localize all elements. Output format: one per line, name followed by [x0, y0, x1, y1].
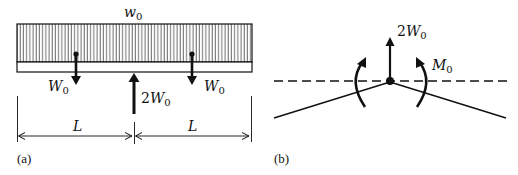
right-load-label: W0 — [204, 78, 225, 96]
arrowhead-up-icon — [386, 37, 395, 46]
dimension-label-left: L — [72, 118, 82, 134]
left-moment-arc — [356, 57, 366, 107]
left-load-label: W0 — [48, 78, 69, 96]
distributed-load-block — [17, 24, 252, 62]
figure: w0 W0 W0 2W0 — [0, 0, 518, 175]
reaction-label: 2W0 — [397, 23, 427, 41]
panel-b: 2W0 M0 (b) — [274, 23, 508, 166]
arrowhead-down-icon — [71, 76, 81, 85]
right-moment-arc — [416, 57, 426, 107]
reaction-arrow — [386, 37, 395, 81]
right-deflected-segment — [390, 82, 506, 118]
panel-a-caption: (a) — [17, 151, 31, 166]
dimension-label-right: L — [187, 118, 197, 134]
beam — [17, 62, 252, 72]
arrowhead-down-icon — [187, 76, 197, 85]
panel-b-caption: (b) — [274, 151, 289, 166]
support-reaction-arrow — [129, 73, 140, 114]
arrowhead-up-icon — [129, 73, 140, 82]
distributed-load-label: w0 — [124, 4, 142, 22]
support-reaction-label: 2W0 — [141, 90, 171, 108]
moment-label: M0 — [431, 57, 453, 75]
hinge-dot — [386, 77, 394, 85]
figure-svg: w0 W0 W0 2W0 — [0, 0, 518, 175]
left-deflected-segment — [274, 82, 390, 118]
panel-a: w0 W0 W0 2W0 — [17, 4, 252, 166]
